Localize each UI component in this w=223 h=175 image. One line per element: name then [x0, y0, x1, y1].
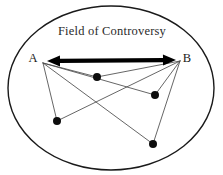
- position-point-p2: [151, 91, 159, 99]
- connector-lines-group: [43, 61, 180, 144]
- field-of-controversy-diagram: Field of Controversy A B: [0, 0, 223, 175]
- controversy-axis-group: [47, 55, 176, 67]
- axis-arrow-shaft: [60, 58, 163, 63]
- connector-line-b-p2: [155, 61, 180, 95]
- field-title-label: Field of Controversy: [58, 24, 167, 38]
- position-point-p3: [53, 117, 61, 125]
- diagram-canvas: Field of Controversy A B: [0, 0, 223, 175]
- position-point-p1: [93, 73, 101, 81]
- endpoint-label-b: B: [183, 51, 191, 65]
- connector-line-b-p3: [57, 61, 180, 121]
- position-point-p4: [149, 140, 157, 148]
- endpoint-label-a: A: [28, 51, 37, 65]
- connector-line-b-p4: [153, 61, 180, 144]
